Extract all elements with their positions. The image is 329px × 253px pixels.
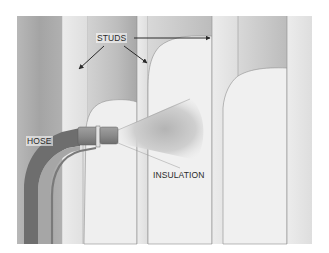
nozzle-clamp xyxy=(96,126,100,147)
hose-label: HOSE xyxy=(26,136,53,146)
insulation-label: INSULATION xyxy=(153,170,204,180)
insulation-fill-2 xyxy=(84,100,137,244)
stud-4 xyxy=(287,16,312,244)
studs-label: STUDS xyxy=(96,33,127,43)
insulation-fill-4 xyxy=(223,68,287,244)
wall-insulation-diagram xyxy=(0,0,329,253)
nozzle-coupling xyxy=(78,127,98,145)
nozzle-tip xyxy=(100,127,118,144)
